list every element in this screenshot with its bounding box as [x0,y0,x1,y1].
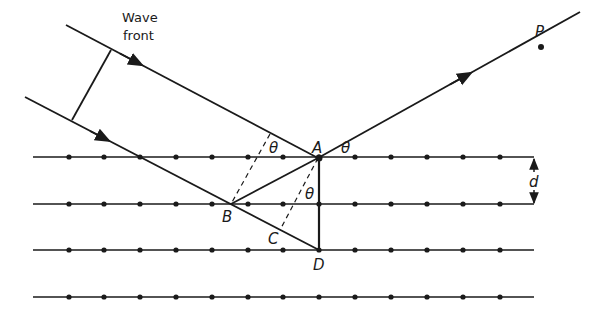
lattice-atom [245,294,250,299]
lattice-atom [424,247,429,252]
lattice-atom [352,154,357,159]
lattice-atom [137,294,142,299]
lattice-atom [460,154,465,159]
lattice-atom [460,247,465,252]
lattice-atom [245,201,250,206]
point-D-label: D [313,256,325,274]
theta-reflected-label: θ [341,139,350,157]
lattice-atom [497,294,502,299]
lattice-atom [209,201,214,206]
point-A-label: A [311,139,322,157]
lattice-atom [173,154,178,159]
point-P-label: P [535,23,545,41]
lattice-atom [352,201,357,206]
lattice-atom [66,154,71,159]
lattice-atom [388,247,393,252]
incident-ray-lower-arrow [90,131,104,138]
lattice-atom [66,247,71,252]
lattice-atom [460,201,465,206]
incident-ray-upper-arrow [120,54,137,63]
theta-inner-label: θ [305,185,314,203]
lattice-atom [245,154,250,159]
lattice-atom [388,201,393,206]
lattice-atom [101,154,106,159]
lattice-atom [388,154,393,159]
lattice-atom [101,247,106,252]
lattice-atom [280,294,285,299]
lattice-atom [66,201,71,206]
reflected-ray-arrow [450,76,466,85]
lattice-atom [209,294,214,299]
lattice-atom [497,154,502,159]
lattice-atom [460,294,465,299]
wavefront-label-2: front [123,28,154,43]
incident-ray-lower [25,97,319,250]
lattice-atom [101,201,106,206]
lattice-atom [137,201,142,206]
lattice-atom [209,154,214,159]
lattice-atom [497,201,502,206]
lattice-atom [424,154,429,159]
lattice-atom [173,201,178,206]
spacing-d-label: d [529,173,539,191]
lattice-atom [173,247,178,252]
point-P-dot [538,44,544,50]
lattice-atom [352,294,357,299]
wavefront-label-1: Wave [122,10,158,25]
lattice-atom [209,247,214,252]
lattice-atom [280,201,285,206]
point-B-label: B [222,208,232,226]
theta-incident-label: θ [269,139,278,157]
lattice-atom [316,294,321,299]
lattice-atom [424,294,429,299]
lattice-atom [352,247,357,252]
wavefront-line [72,50,111,120]
lattice-atom [101,294,106,299]
lattice-atom [173,294,178,299]
lattice-atom [388,294,393,299]
lattice-atom [66,294,71,299]
lattice-atom [245,247,250,252]
lattice-atom [280,247,285,252]
lattice-atom [497,247,502,252]
lattice-atom [137,247,142,252]
lattice-atom [280,154,285,159]
lattice-atom [424,201,429,206]
point-C-label: C [268,230,279,248]
bragg-diagram: Wave front P A B C D θ θ θ d [0,0,590,312]
